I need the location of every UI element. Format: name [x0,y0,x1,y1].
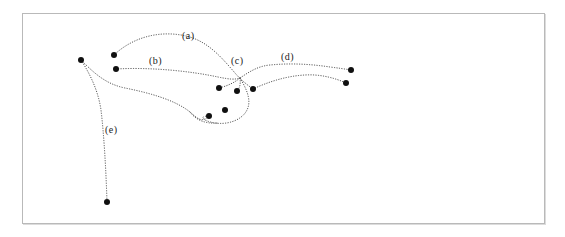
data-point [216,85,222,91]
curve-label-a: (a) [182,31,195,41]
figure-root: (a)(b)(c)(d)(e) [0,0,565,237]
data-point [111,52,117,58]
curve-label-e: (e) [105,125,118,135]
curve-label-b: (b) [149,56,162,66]
data-point [222,107,228,113]
curve-b [116,68,240,79]
data-point [250,86,256,92]
data-point [104,199,110,205]
data-point [343,80,349,86]
points-layer [78,52,354,205]
curve-d [240,64,351,89]
data-point [206,113,212,119]
data-point [78,57,84,63]
curves-layer [81,34,351,202]
data-point [113,66,119,72]
diagram-canvas [0,0,565,237]
curve-label-c: (c) [231,56,244,66]
data-point [348,67,354,73]
curve-label-d: (d) [281,52,294,62]
data-point [234,88,240,94]
curve-e [81,60,218,202]
